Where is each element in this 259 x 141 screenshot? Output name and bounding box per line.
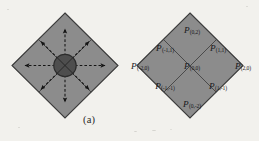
cell-index: (1,-1) — [215, 85, 227, 91]
panel-a: (a) — [0, 0, 129, 141]
cell-index: (0,0) — [190, 65, 200, 71]
cell-symbol: P — [183, 99, 189, 109]
cell-label-n2-0: P(-2,0) — [131, 62, 149, 72]
cell-symbol: P — [155, 81, 161, 91]
cell-index: (-1,-1) — [161, 85, 175, 91]
cell-symbol: P — [210, 43, 216, 53]
cell-label-n1-1: P(-1,1) — [156, 44, 174, 54]
cell-symbol: P — [131, 61, 137, 71]
panel-a-diagram — [0, 0, 129, 141]
cell-label-0-n2: P(0,-2) — [183, 100, 201, 110]
cell-index: (0,-2) — [189, 103, 201, 109]
cell-label-0-2: P(0,2) — [184, 26, 200, 36]
cell-label-1-1: P(1,1) — [210, 44, 226, 54]
cell-symbol: P — [209, 81, 215, 91]
scan-speck — [7, 9, 9, 10]
figure-root: (a) P(0,2) — [0, 0, 259, 141]
panel-a-caption: (a) — [83, 114, 95, 125]
cell-label-0-0: P(0,0) — [184, 62, 200, 72]
cell-index: (-2,0) — [137, 65, 149, 71]
cell-label-n1-n1: P(-1,-1) — [155, 82, 175, 92]
scan-speck — [18, 127, 20, 128]
cell-index: (1,1) — [216, 47, 226, 53]
cell-label-2-0: P(2,0) — [235, 62, 251, 72]
cell-index: (0,2) — [190, 29, 200, 35]
cell-index: (2,0) — [241, 65, 251, 71]
cell-label-1-n1: P(1,-1) — [209, 82, 227, 92]
cell-index: (-1,1) — [162, 47, 174, 53]
panel-b: P(0,2) P(-1,1) P(1,1) P(-2,0) P(0,0) P(2… — [129, 0, 258, 141]
center-node-marker — [54, 54, 76, 76]
cell-symbol: P — [184, 25, 190, 35]
cell-symbol: P — [184, 61, 190, 71]
cell-symbol: P — [235, 61, 241, 71]
cell-symbol: P — [156, 43, 162, 53]
scan-speck — [246, 6, 248, 7]
